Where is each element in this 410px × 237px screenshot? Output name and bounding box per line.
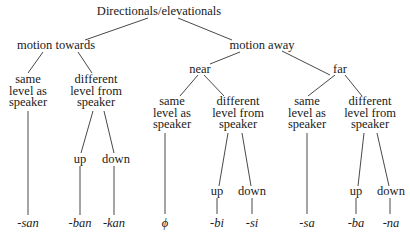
- towards-down-node: down: [102, 154, 130, 166]
- leaf-ba: -ba: [348, 218, 365, 230]
- leaf-san: -san: [17, 218, 39, 230]
- towards-different-level-node: different level from speaker: [70, 74, 122, 109]
- leaf-ban: -ban: [69, 218, 92, 230]
- tree-edge: [78, 52, 92, 73]
- leaf-si: -si: [246, 218, 259, 230]
- towards-same-level-node: same level as speaker: [9, 74, 47, 109]
- tree-edge: [358, 133, 364, 186]
- near-node: near: [189, 64, 211, 76]
- far-up-node: up: [350, 186, 363, 198]
- near-same-level-node: same level as speaker: [153, 96, 191, 131]
- tree-edge: [210, 52, 240, 64]
- root-node: Directionals/elevationals: [97, 6, 221, 18]
- tree-edge: [178, 18, 232, 40]
- tree-edge: [219, 133, 228, 186]
- directionals-tree-diagram: Directionals/elevationals motion towards…: [0, 0, 410, 237]
- tree-edge: [180, 75, 198, 96]
- leaf-kan: -kan: [103, 218, 125, 230]
- motion-away-node: motion away: [230, 40, 295, 52]
- near-down-node: down: [238, 186, 266, 198]
- tree-edge: [81, 111, 93, 153]
- tree-edge: [104, 111, 114, 153]
- motion-towards-node: motion towards: [17, 40, 95, 52]
- far-same-level-node: same level as speaker: [288, 96, 326, 131]
- tree-edge: [377, 133, 389, 186]
- leaf-na: -na: [383, 218, 400, 230]
- leaf-zero: ϕ: [162, 218, 168, 230]
- far-node: far: [333, 64, 347, 76]
- tree-edge: [204, 75, 224, 96]
- near-different-level-node: different level from speaker: [212, 96, 264, 131]
- far-different-level-node: different level from speaker: [344, 96, 396, 131]
- far-down-node: down: [377, 186, 405, 198]
- towards-up-node: up: [74, 154, 87, 166]
- tree-edge: [282, 51, 330, 75]
- leaf-sa: -sa: [299, 218, 314, 230]
- leaf-bi: -bi: [210, 218, 224, 230]
- tree-edge: [345, 75, 362, 96]
- tree-edge: [85, 18, 148, 40]
- near-up-node: up: [211, 186, 224, 198]
- tree-edge: [28, 52, 43, 73]
- tree-edge: [242, 133, 251, 186]
- tree-edge: [308, 75, 335, 96]
